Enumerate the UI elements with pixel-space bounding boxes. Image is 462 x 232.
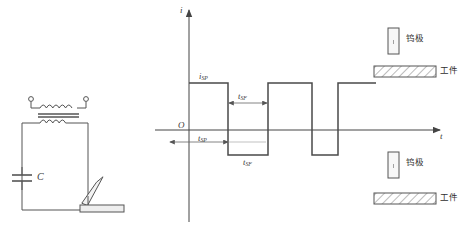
polarity-panel-bottom xyxy=(374,152,436,204)
workpiece-label-top: 工件 xyxy=(440,66,458,75)
transformer-secondary-coil xyxy=(40,120,66,123)
positive-amplitude-subscript: SP xyxy=(201,75,207,81)
workpiece-circuit xyxy=(80,205,124,212)
primary-lead-left xyxy=(31,102,40,109)
waveform-path xyxy=(189,83,376,155)
secondary-lead-left xyxy=(22,123,110,210)
positive-amplitude-label: iSP xyxy=(199,72,208,82)
input-terminal-left xyxy=(29,97,34,102)
circuit-diagram xyxy=(12,97,124,212)
welding-figure: C i t O iSP tSF tSP tSF 钨极 工件 钨极 工件 xyxy=(0,0,462,232)
origin-label: O xyxy=(178,121,185,130)
positive-duration-subscript: SP xyxy=(200,137,206,143)
negative-amplitude-subscript: SF xyxy=(245,161,251,167)
current-axis-label: i xyxy=(180,6,183,15)
square-wave-trace xyxy=(189,83,376,155)
transformer-primary-coil xyxy=(40,105,72,108)
time-axis-label: t xyxy=(440,132,443,141)
tungsten-electrode-circuit xyxy=(82,177,103,206)
positive-duration-label: tSP xyxy=(198,134,207,144)
secondary-lead-right xyxy=(66,123,88,196)
input-terminal-right xyxy=(84,97,89,102)
primary-lead-right xyxy=(77,102,86,109)
negative-duration-label: tSF xyxy=(238,92,247,102)
capacitor-label: C xyxy=(37,172,44,182)
workpiece-bottom xyxy=(374,193,436,204)
electrode-label-top: 钨极 xyxy=(406,34,424,43)
electrode-label-bottom: 钨极 xyxy=(406,158,424,167)
polarity-panel-top xyxy=(374,28,436,77)
workpiece-top xyxy=(374,66,436,77)
workpiece-label-bottom: 工件 xyxy=(440,193,458,202)
figure-canvas xyxy=(0,0,462,232)
negative-amplitude-label: tSF xyxy=(243,158,252,168)
negative-duration-subscript: SF xyxy=(240,95,246,101)
